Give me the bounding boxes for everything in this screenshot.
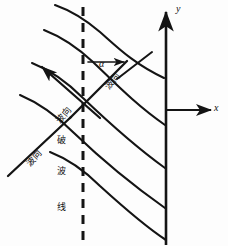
diagram-canvas — [0, 0, 228, 246]
breaking-line-label-char-2: 波 — [57, 167, 66, 176]
y-axis-label: y — [176, 4, 180, 14]
breaking-line-label-char-1: 破 — [57, 136, 66, 145]
wave-ray-upper — [70, 61, 127, 118]
breaking-line-label-char-3: 线 — [57, 203, 66, 212]
wave-crest-1 — [55, 5, 164, 78]
wave-refraction-diagram: y x α 波向 波向 波向 破 波 线 — [0, 0, 228, 246]
x-axis-label: x — [214, 103, 218, 113]
alpha-angle-label: α — [99, 59, 104, 69]
